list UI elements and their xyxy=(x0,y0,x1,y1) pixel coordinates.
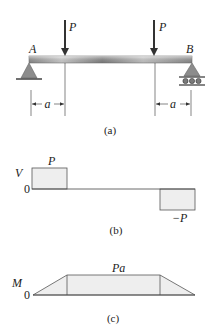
caption-a: (a) xyxy=(104,124,117,137)
dimension-left: a xyxy=(32,97,64,111)
caption-c: (c) xyxy=(107,312,120,325)
shear-diagram: V 0 P −P (b) xyxy=(15,154,195,237)
moment-diagram: M 0 Pa (c) xyxy=(11,261,195,325)
moment-area xyxy=(33,275,195,295)
beam-diagram-figure: P P A B a xyxy=(0,0,221,336)
dimension-right: a xyxy=(156,97,190,111)
load-arrow-right-icon xyxy=(150,20,158,56)
pin-support-icon xyxy=(16,63,42,79)
moment-zero-label: 0 xyxy=(24,288,30,302)
shear-positive-label: P xyxy=(47,154,56,168)
loaded-beam: P P A B a xyxy=(16,20,205,137)
caption-b: (b) xyxy=(110,224,123,237)
roller-support-icon xyxy=(179,63,205,85)
dimension-left-label: a xyxy=(45,97,51,111)
moment-max-label: Pa xyxy=(111,261,125,275)
shear-axis-label: V xyxy=(15,166,24,180)
shear-positive-block xyxy=(32,168,67,189)
dimension-right-label: a xyxy=(170,97,176,111)
shear-negative-label: −P xyxy=(172,211,188,225)
load-right-label: P xyxy=(158,20,167,34)
shear-negative-block xyxy=(160,189,195,210)
support-b-label: B xyxy=(186,42,194,56)
load-left-label: P xyxy=(68,20,77,34)
shear-zero-label: 0 xyxy=(24,182,30,196)
support-a-label: A xyxy=(28,42,37,56)
load-arrow-left-icon xyxy=(61,20,69,56)
moment-axis-label: M xyxy=(11,276,23,290)
